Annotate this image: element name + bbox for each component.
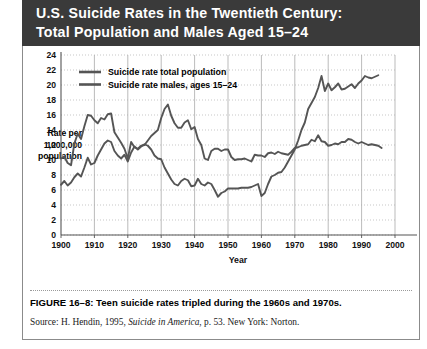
x-tick-label: 1920 [118, 240, 137, 250]
caption-block: FIGURE 16–8: Teen suicide rates tripled … [30, 296, 416, 328]
y-tick-label: 4 [51, 200, 56, 210]
y-tick-label: 0 [51, 230, 56, 240]
y-tick-label: 6 [51, 185, 56, 195]
figure-number: FIGURE 16–8: [30, 297, 93, 308]
x-tick-label: 2000 [385, 240, 404, 250]
x-tick-label: 1930 [152, 240, 171, 250]
x-tick-label: 1980 [319, 240, 338, 250]
source-suffix: , p. 53. New York: Norton. [199, 317, 299, 327]
y-tick-label: 8 [51, 170, 56, 180]
series-line-2 [61, 75, 378, 197]
figure-caption: FIGURE 16–8: Teen suicide rates tripled … [30, 296, 416, 309]
source-prefix: Source: H. Hendin, 1995, [30, 317, 128, 327]
x-tick-label: 1910 [85, 240, 104, 250]
figure-source: Source: H. Hendin, 1995, Suicide in Amer… [30, 316, 416, 328]
line-chart-svg: 0246810121416182022241900191019201930194… [22, 46, 420, 286]
figure-title-line-2: Total Population and Males Aged 15–24 [36, 23, 420, 42]
y-tick-label: 2 [51, 215, 56, 225]
y-tick-label: 20 [46, 80, 56, 90]
y-tick-label: 22 [46, 65, 56, 75]
x-tick-label: 1940 [185, 240, 204, 250]
chart-plot: 0246810121416182022241900191019201930194… [22, 46, 420, 290]
figure-title-line-1: U.S. Suicide Rates in the Twentieth Cent… [36, 4, 420, 23]
legend-label-1: Suicide rate total population [108, 67, 226, 77]
y-tick-label: 12 [46, 140, 56, 150]
y-tick-label: 10 [46, 155, 56, 165]
x-tick-label: 1960 [252, 240, 271, 250]
y-tick-label: 24 [46, 50, 56, 60]
legend-label-2: Suicide rate males, ages 15–24 [108, 80, 237, 90]
chart-area: Rate per 1,000,000 population 0246810121… [22, 46, 420, 286]
x-tick-label: 1950 [218, 240, 237, 250]
series-line-1 [61, 105, 382, 166]
y-tick-label: 16 [46, 110, 56, 120]
x-tick-label: 1970 [285, 240, 304, 250]
x-axis-title: Year [229, 255, 248, 265]
y-tick-label: 14 [46, 125, 56, 135]
source-title: Suicide in America [128, 317, 199, 327]
caption-separator [30, 290, 412, 292]
figure-title-bar: U.S. Suicide Rates in the Twentieth Cent… [22, 0, 420, 46]
x-tick-label: 1900 [51, 240, 70, 250]
figure-container: U.S. Suicide Rates in the Twentieth Cent… [0, 0, 427, 349]
x-tick-label: 1990 [352, 240, 371, 250]
y-tick-label: 18 [46, 95, 56, 105]
figure-caption-text: Teen suicide rates tripled during the 19… [93, 297, 341, 308]
